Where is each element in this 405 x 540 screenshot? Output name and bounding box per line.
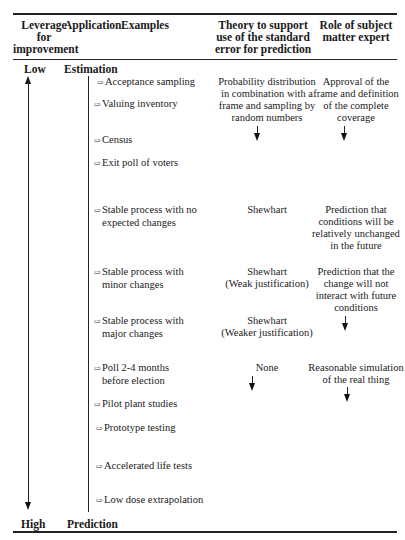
example-item: ⇨Low dose extrapolation: [96, 494, 236, 507]
example-text: Valuing inventory: [102, 98, 178, 109]
header-expert-line: Role of subject: [310, 19, 402, 31]
header-expert: Role of subject matter expert: [310, 19, 402, 43]
expert-line: Reasonable simulation: [305, 362, 405, 374]
expert-cell: Reasonable simulation of the real thing: [305, 362, 405, 386]
expert-line: in the future: [309, 240, 403, 252]
expert-line: coverage: [309, 112, 403, 124]
example-text: Acceptance sampling: [105, 76, 195, 87]
expert-line: conditions: [309, 302, 403, 314]
expert-line: conditions will be: [309, 216, 403, 228]
expert-line: of the real thing: [305, 374, 405, 386]
header-theory-line: Theory to support: [208, 19, 318, 31]
theory-cell: Shewhart: [212, 204, 322, 216]
example-text: Accelerated life tests: [104, 460, 192, 471]
application-axis-line: [88, 76, 89, 512]
header-leverage-improvement: improvement: [13, 43, 79, 55]
bottom-rule: [13, 531, 397, 533]
header-expert-line: matter expert: [310, 31, 402, 43]
expert-cell: Prediction that the change will not inte…: [309, 266, 403, 314]
leverage-low-label: Low: [24, 63, 46, 75]
hollow-right-arrow-icon: ⇨: [94, 399, 102, 411]
expert-cell: Approval of the frame and definition of …: [309, 76, 403, 124]
hollow-right-arrow-icon: ⇨: [96, 461, 104, 473]
hollow-right-arrow-icon: ⇨: [94, 99, 102, 111]
hollow-right-arrow-icon: ⇨: [94, 158, 102, 170]
example-text: Census: [102, 134, 132, 145]
theory-cell: Probability distribution in combination …: [212, 76, 322, 124]
application-estimation-label: Estimation: [64, 63, 118, 75]
header-theory: Theory to support use of the standard er…: [208, 19, 318, 55]
arrow-down-icon: [341, 133, 347, 141]
header-examples: Examples: [121, 19, 169, 31]
example-text: Poll 2-4 months: [102, 362, 169, 373]
application-prediction-label: Prediction: [67, 518, 118, 530]
theory-line: random numbers: [212, 112, 322, 124]
hollow-right-arrow-icon: ⇨: [94, 316, 102, 328]
example-text: Stable process with no: [102, 204, 197, 215]
theory-line: (Weaker justification): [212, 327, 322, 339]
example-item: ⇨Exit poll of voters: [94, 157, 234, 170]
arrow-down-icon: [249, 383, 255, 391]
arrow-down-icon: [25, 502, 31, 510]
example-item: ⇨Census: [94, 134, 234, 147]
theory-line: Shewhart: [212, 266, 322, 278]
hollow-right-arrow-icon: ⇨: [96, 423, 104, 435]
hollow-right-arrow-icon: ⇨: [94, 267, 102, 279]
example-text-line2: before election: [94, 375, 234, 387]
hollow-right-arrow-icon: ⇨: [94, 135, 102, 147]
example-item: ⇨Accelerated life tests: [96, 460, 236, 473]
example-text: Exit poll of voters: [102, 157, 178, 168]
theory-line: Probability distribution: [212, 76, 322, 88]
leverage-axis-line: [28, 80, 29, 504]
theory-line: frame and sampling by: [212, 100, 322, 112]
expert-line: Prediction that: [309, 204, 403, 216]
theory-line: Shewhart: [212, 315, 322, 327]
arrow-shaft: [257, 126, 258, 134]
example-item: ⇨Pilot plant studies: [94, 398, 234, 411]
expert-line: frame and definition: [309, 88, 403, 100]
expert-line: relatively unchanged: [309, 228, 403, 240]
theory-cell: Shewhart (Weak justification): [212, 266, 322, 290]
example-text: Prototype testing: [104, 422, 175, 433]
theory-line: (Weak justification): [212, 278, 322, 290]
arrow-down-icon: [254, 133, 260, 141]
hollow-right-arrow-icon: ⇨: [96, 495, 104, 507]
example-text: Pilot plant studies: [102, 398, 177, 409]
hollow-right-arrow-icon: ⇨: [97, 77, 105, 89]
expert-line: change will not: [309, 278, 403, 290]
leverage-high-label: High: [21, 518, 45, 530]
expert-line: Prediction that the: [309, 266, 403, 278]
expert-line: of the complete: [309, 100, 403, 112]
header-rule: [13, 59, 397, 60]
arrow-down-icon: [344, 394, 350, 402]
header-leverage-line: for: [10, 31, 78, 43]
example-item: ⇨Prototype testing: [96, 422, 236, 435]
hollow-right-arrow-icon: ⇨: [94, 363, 102, 375]
example-text: Stable process with: [102, 315, 184, 326]
hollow-right-arrow-icon: ⇨: [94, 205, 102, 217]
theory-cell: Shewhart (Weaker justification): [212, 315, 322, 339]
expert-line: Approval of the: [309, 76, 403, 88]
theory-line: Shewhart: [212, 204, 322, 216]
header-theory-line: use of the standard: [208, 31, 318, 43]
theory-line: in combination with a: [212, 88, 322, 100]
example-text: Stable process with: [102, 266, 184, 277]
top-rule: [13, 13, 397, 15]
example-text-line2: expected changes: [94, 217, 234, 229]
header-theory-line: error for prediction: [208, 43, 318, 55]
arrow-down-icon: [342, 323, 348, 331]
header-application: Application: [64, 19, 122, 31]
expert-line: interact with future: [309, 290, 403, 302]
expert-cell: Prediction that conditions will be relat…: [309, 204, 403, 252]
example-text: Low dose extrapolation: [104, 494, 203, 505]
